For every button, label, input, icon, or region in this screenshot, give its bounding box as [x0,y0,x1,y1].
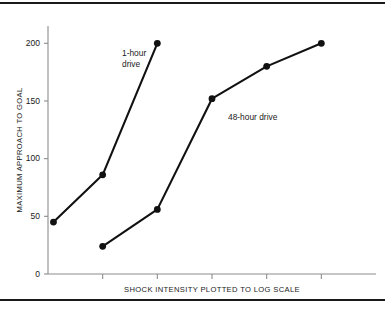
data-point-marker [318,40,325,47]
series-annotation-1-hour-line2: drive [122,59,140,69]
series-line-48-hour-drive [103,43,322,246]
y-tick-label: 100 [26,153,40,163]
y-tick-label: 50 [31,211,41,221]
y-tick-label: 0 [35,269,40,279]
line-chart-plot: 050100150200 MAXIMUM APPROACH TO GOAL SH… [0,0,385,310]
data-point-marker [154,206,161,213]
data-point-marker [99,171,106,178]
data-point-marker [209,95,216,102]
y-tick-label: 150 [26,96,40,106]
y-axis-title: MAXIMUM APPROACH TO GOAL [15,87,24,212]
data-point-marker [154,40,161,47]
series-lines-group [53,43,321,246]
data-point-marker [50,219,57,226]
data-point-marker [263,63,270,70]
series-annotation-48-hour: 48-hour drive [228,112,278,122]
y-axis-tick-labels: 050100150200 [26,38,40,279]
y-axis-ticks [44,43,48,274]
series-markers-group [50,40,325,250]
y-tick-label: 200 [26,38,40,48]
chart-figure: 050100150200 MAXIMUM APPROACH TO GOAL SH… [0,0,385,310]
data-point-marker [99,243,106,250]
x-axis-ticks [103,274,322,279]
x-axis-title: SHOCK INTENSITY PLOTTED TO LOG SCALE [124,285,300,294]
series-annotation-1-hour-line1: 1-hour [122,48,146,58]
series-line-1-hour-drive [53,43,157,222]
